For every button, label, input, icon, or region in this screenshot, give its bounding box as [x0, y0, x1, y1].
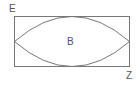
label-corner-top-left: E — [9, 3, 16, 14]
label-corner-bottom-right: Z — [126, 70, 132, 81]
label-center: B — [67, 36, 74, 47]
diagram-canvas: E B Z — [0, 0, 139, 109]
geometry-figure: E B Z — [0, 0, 139, 109]
